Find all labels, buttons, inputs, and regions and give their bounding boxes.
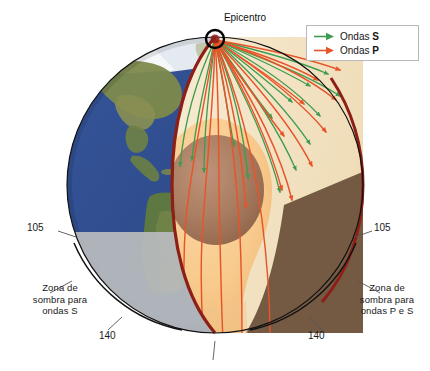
angle-label-105-left: 105 (27, 222, 44, 233)
legend-label-s-prefix: Ondas (340, 31, 372, 42)
legend-label-s-wave: Ondas S (340, 31, 379, 42)
legend-box: Ondas S Ondas P (306, 25, 419, 61)
angle-label-140-right: 140 (308, 330, 325, 341)
arrow-right-icon (313, 31, 335, 42)
legend-label-p-bold: P (372, 45, 379, 56)
arrow-right-icon (313, 45, 335, 56)
legend-label-s-bold: S (372, 31, 379, 42)
legend-item-s-wave: Ondas S (313, 30, 412, 43)
legend-item-p-wave: Ondas P (313, 44, 412, 57)
shadow-zone-label-left: Zona de sombra para ondas S (8, 282, 112, 317)
legend-label-p-prefix: Ondas (340, 45, 372, 56)
epicenter-label: Epicentro (185, 12, 305, 23)
angle-label-105-right: 105 (374, 222, 391, 233)
legend-label-p-wave: Ondas P (340, 45, 379, 56)
seismic-wave-diagram: Epicentro Zona de sombra para ondas S Zo… (0, 0, 430, 371)
angle-label-140-left: 140 (99, 330, 116, 341)
shadow-zone-label-right: Zona de sombra para ondas P e S (344, 282, 430, 317)
